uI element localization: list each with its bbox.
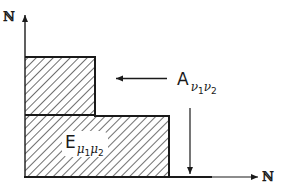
label-a-sub2-index: 2 [211, 86, 217, 96]
label-a-sub1-index: 1 [198, 86, 204, 96]
hatched-region [25, 57, 169, 177]
x-axis-label: ℕ [262, 170, 273, 183]
label-a: Aν1ν2 [177, 71, 217, 88]
label-a-sub1-symbol: ν [191, 80, 198, 94]
label-e-sub1-symbol: μ [77, 142, 85, 156]
label-e-main: E [65, 132, 76, 152]
label-a-sub2-symbol: ν [204, 80, 211, 94]
label-e-sub2-index: 2 [98, 148, 104, 158]
label-a-main: A [177, 69, 189, 89]
label-e-sub1-index: 1 [85, 148, 91, 158]
set-diagram [0, 0, 285, 194]
label-e-sub2-symbol: μ [90, 142, 98, 156]
y-axis-label: ℕ [3, 10, 14, 23]
label-e: Eμ1μ2 [65, 134, 104, 151]
